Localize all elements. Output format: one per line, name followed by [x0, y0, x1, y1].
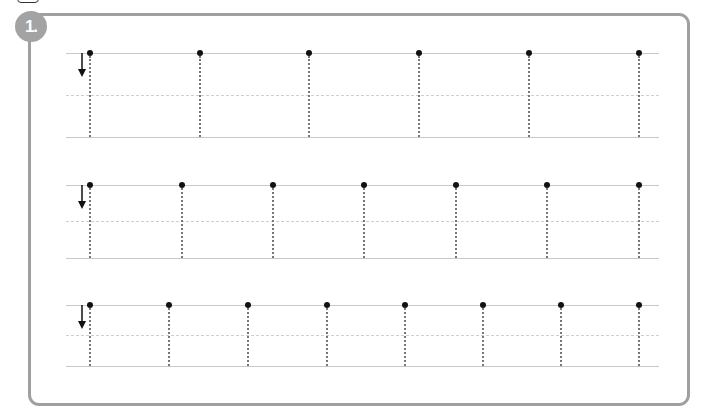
- start-dot: [87, 182, 93, 188]
- trace-stroke: [404, 308, 406, 366]
- worksheet-frame: [28, 13, 690, 406]
- trace-stroke: [89, 56, 91, 137]
- trace-stroke: [546, 188, 548, 258]
- trace-stroke: [528, 56, 530, 137]
- down-arrow-icon: [78, 53, 86, 78]
- trace-stroke: [199, 56, 201, 137]
- start-dot: [324, 302, 330, 308]
- trace-stroke: [272, 188, 274, 258]
- start-dot: [558, 302, 564, 308]
- trace-stroke: [638, 308, 640, 366]
- top-guide-line: [66, 305, 659, 306]
- mid-guide-line: [66, 95, 659, 96]
- trace-stroke: [247, 308, 249, 366]
- start-dot: [544, 182, 550, 188]
- trace-stroke: [560, 308, 562, 366]
- trace-stroke: [326, 308, 328, 366]
- start-dot: [480, 302, 486, 308]
- start-dot: [166, 302, 172, 308]
- start-dot: [245, 302, 251, 308]
- start-dot: [87, 302, 93, 308]
- trace-stroke: [638, 56, 640, 137]
- trace-stroke: [482, 308, 484, 366]
- trace-stroke: [168, 308, 170, 366]
- trace-stroke: [363, 188, 365, 258]
- start-dot: [453, 182, 459, 188]
- mid-guide-line: [66, 335, 659, 336]
- start-dot: [361, 182, 367, 188]
- start-dot: [416, 50, 422, 56]
- trace-stroke: [181, 188, 183, 258]
- down-arrow-icon: [78, 305, 86, 330]
- top-guide-line: [66, 53, 659, 54]
- start-dot: [306, 50, 312, 56]
- trace-stroke: [89, 188, 91, 258]
- trace-stroke: [638, 188, 640, 258]
- start-dot: [270, 182, 276, 188]
- trace-stroke: [308, 56, 310, 137]
- down-arrow-icon: [78, 185, 86, 210]
- start-dot: [402, 302, 408, 308]
- start-dot: [636, 182, 642, 188]
- bottom-guide-line: [66, 137, 659, 138]
- start-dot: [87, 50, 93, 56]
- start-dot: [197, 50, 203, 56]
- trace-stroke: [418, 56, 420, 137]
- start-dot: [526, 50, 532, 56]
- bottom-guide-line: [66, 258, 659, 259]
- bottom-guide-line: [66, 366, 659, 367]
- trace-stroke: [455, 188, 457, 258]
- start-dot: [636, 302, 642, 308]
- top-corner-icon: [17, 0, 39, 3]
- start-dot: [179, 182, 185, 188]
- trace-stroke: [89, 308, 91, 366]
- exercise-number-badge: 1.: [15, 11, 47, 42]
- start-dot: [636, 50, 642, 56]
